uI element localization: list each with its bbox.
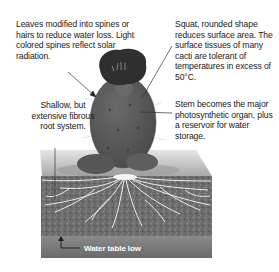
label-water-table: Water table low [84, 244, 141, 255]
label-leaves: Leaves modified into spines or hairs to … [16, 19, 136, 61]
root-base [113, 174, 137, 180]
cactus-lower-pad-right [126, 153, 158, 171]
leader-squat [142, 46, 172, 98]
label-roots: Shallow, but extensive fibrous root syst… [28, 100, 98, 132]
label-squat-shape: Squat, rounded shape reduces surface are… [175, 19, 279, 83]
soil-block [41, 176, 212, 236]
arrow-head-icon [90, 91, 96, 97]
cactus-lower-pad-left [77, 154, 115, 174]
label-stem: Stem becomes the major photosynthetic or… [175, 99, 279, 141]
